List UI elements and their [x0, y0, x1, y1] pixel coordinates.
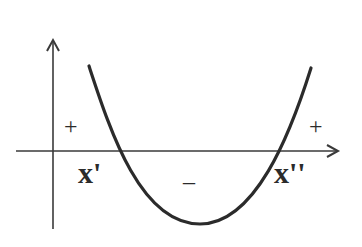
sign-middle-region: –: [182, 168, 196, 194]
parabola-sign-diagram: + – + x' x'': [0, 0, 362, 247]
sign-right-region: +: [309, 113, 323, 139]
y-axis: [47, 40, 59, 229]
sign-left-region: +: [64, 113, 78, 139]
parabola-curve: [89, 66, 311, 224]
root-label-x-prime: x': [78, 156, 101, 189]
root-label-x-double-prime: x'': [274, 156, 306, 189]
